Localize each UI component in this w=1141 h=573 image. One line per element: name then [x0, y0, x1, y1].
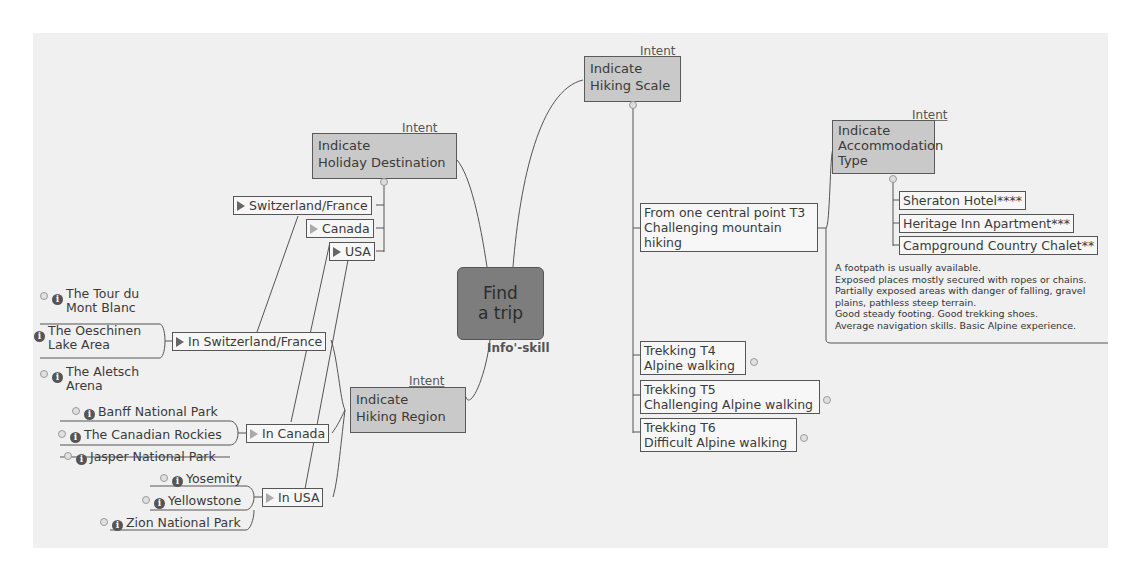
level-label-line3: hiking [644, 235, 814, 250]
node-label-line2: Hiking Region [356, 408, 460, 425]
place-zion-national-park[interactable]: iZion National Park [100, 516, 241, 531]
level-label-line1: Trekking T6 [644, 420, 793, 435]
level-label-line1: From one central point T3 [644, 205, 814, 220]
intent-node-accommodation-type[interactable]: Indicate Accommodation Type [832, 120, 935, 174]
info-skill-tag: Info'-skill [487, 341, 550, 355]
expand-icon[interactable] [72, 407, 80, 415]
note-line: Average navigation skills. Basic Alpine … [835, 320, 1086, 332]
place-aletsch-arena[interactable]: iThe AletschArena [40, 368, 139, 393]
level-label-line1: Trekking T5 [644, 382, 816, 397]
place-label: Banff National Park [98, 404, 218, 419]
note-line: Partially exposed areas with danger of f… [835, 285, 1086, 297]
node-label-line1: Indicate [590, 60, 675, 77]
accommodation-sheraton[interactable]: Sheraton Hotel**** [899, 191, 1026, 210]
level-label-line1: Trekking T4 [644, 343, 742, 358]
place-label-line2: Arena [66, 378, 103, 393]
info-icon[interactable]: i [154, 498, 165, 509]
level-label-line2: Difficult Alpine walking [644, 435, 793, 450]
info-icon[interactable]: i [172, 476, 183, 487]
node-label-line1: Indicate [356, 391, 460, 408]
destination-label: Canada [322, 221, 370, 236]
flag-icon [333, 247, 341, 257]
destination-canada[interactable]: Canada [306, 219, 374, 238]
expand-icon[interactable] [58, 430, 66, 438]
place-label-line2: Lake Area [48, 337, 110, 352]
scale-level-t6[interactable]: Trekking T6 Difficult Alpine walking [640, 418, 797, 452]
expand-icon[interactable] [40, 292, 48, 300]
region-label: In Switzerland/France [188, 334, 322, 349]
node-label-line2: Hiking Scale [590, 77, 675, 94]
flag-icon [237, 201, 245, 211]
region-in-usa[interactable]: In USA [262, 488, 323, 507]
accommodation-campground[interactable]: Campground Country Chalet** [899, 236, 1098, 255]
region-in-switzerland-france[interactable]: In Switzerland/France [172, 332, 326, 351]
expand-icon[interactable] [823, 396, 831, 404]
collapse-toggle[interactable] [889, 175, 897, 183]
place-tour-du-mont-blanc[interactable]: iThe Tour duMont Blanc [40, 290, 139, 315]
central-line1: Find [458, 283, 543, 303]
scale-level-t4[interactable]: Trekking T4 Alpine walking [640, 341, 746, 375]
level-label-line2: Challenging Alpine walking [644, 397, 816, 412]
place-yosemity[interactable]: iYosemity [160, 472, 242, 487]
scale-level-t3[interactable]: From one central point T3 Challenging mo… [640, 203, 818, 252]
info-icon[interactable]: i [76, 454, 87, 465]
place-label-line1: The Tour du [66, 286, 139, 301]
accommodation-label: Sheraton Hotel**** [903, 193, 1022, 208]
info-icon[interactable]: i [34, 331, 45, 342]
scale-level-t5[interactable]: Trekking T5 Challenging Alpine walking [640, 380, 820, 414]
expand-icon[interactable] [142, 496, 150, 504]
expand-icon[interactable] [64, 452, 72, 460]
central-node-find-a-trip[interactable]: Find a trip [457, 267, 544, 340]
intent-node-holiday-destination[interactable]: Indicate Holiday Destination [312, 133, 457, 179]
accommodation-label: Heritage Inn Apartment*** [903, 216, 1070, 231]
region-label: In USA [278, 490, 319, 505]
place-jasper-national-park[interactable]: iJasper National Park [64, 450, 216, 465]
destination-label: Switzerland/France [249, 198, 368, 213]
place-canadian-rockies[interactable]: iThe Canadian Rockies [58, 428, 222, 443]
destination-usa[interactable]: USA [329, 242, 375, 261]
note-line: Exposed places mostly secured with ropes… [835, 274, 1086, 286]
accommodation-label: Campground Country Chalet** [903, 238, 1094, 253]
info-icon[interactable]: i [70, 432, 81, 443]
node-label-line2: Holiday Destination [318, 154, 451, 171]
level-label-line2: Alpine walking [644, 358, 742, 373]
region-label: In Canada [262, 426, 325, 441]
expand-icon[interactable] [800, 434, 808, 442]
note-line: A footpath is usually available. [835, 262, 1086, 274]
place-oeschinen-lake-area[interactable]: iThe OeschinenLake Area [34, 327, 141, 352]
place-label: Yellowstone [168, 493, 241, 508]
place-label: Jasper National Park [90, 449, 216, 464]
expand-icon[interactable] [160, 474, 168, 482]
place-label-line1: The Aletsch [66, 364, 139, 379]
accommodation-heritage-inn[interactable]: Heritage Inn Apartment*** [899, 214, 1074, 233]
flag-icon [266, 493, 274, 503]
region-in-canada[interactable]: In Canada [246, 424, 329, 443]
node-label-line3: Type [838, 153, 929, 168]
node-label-line2: Accommodation [838, 138, 929, 153]
place-label-line2: Mont Blanc [66, 300, 136, 315]
t3-description-note: A footpath is usually available. Exposed… [835, 262, 1086, 331]
note-line: plains, pathless steep terrain. [835, 297, 1086, 309]
destination-switzerland-france[interactable]: Switzerland/France [233, 196, 372, 215]
place-label-line1: The Oeschinen [48, 323, 141, 338]
info-icon[interactable]: i [52, 372, 63, 383]
info-icon[interactable]: i [52, 294, 63, 305]
intent-node-hiking-region[interactable]: Indicate Hiking Region [350, 387, 466, 433]
place-banff-national-park[interactable]: iBanff National Park [72, 405, 218, 420]
place-yellowstone[interactable]: iYellowstone [142, 494, 241, 509]
expand-icon[interactable] [750, 358, 758, 366]
collapse-toggle[interactable] [380, 178, 388, 186]
destination-label: USA [345, 244, 371, 259]
node-label-line1: Indicate [838, 123, 929, 138]
info-icon[interactable]: i [112, 520, 123, 531]
place-label: The Canadian Rockies [84, 427, 222, 442]
intent-node-hiking-scale[interactable]: Indicate Hiking Scale [584, 56, 681, 102]
expand-icon[interactable] [100, 518, 108, 526]
expand-icon[interactable] [40, 370, 48, 378]
intent-tag: Intent [409, 374, 445, 388]
flag-icon [310, 224, 318, 234]
node-label-line1: Indicate [318, 137, 451, 154]
flag-icon [176, 337, 184, 347]
info-icon[interactable]: i [84, 409, 95, 420]
collapse-toggle[interactable] [629, 101, 637, 109]
